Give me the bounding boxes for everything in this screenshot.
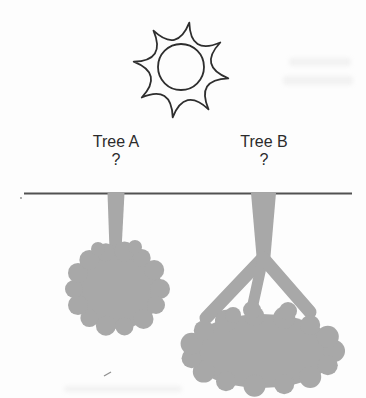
tree-b-label: Tree B: [209, 133, 319, 150]
tree-a-label: Tree A: [61, 133, 171, 150]
sun-core-circle: [158, 44, 204, 90]
tree-roots-diagram: [0, 0, 366, 398]
tree-b-question-mark: ?: [209, 151, 319, 168]
sun-rays-outline: [134, 23, 229, 118]
scan-speck: [104, 372, 111, 376]
tree-a-trunk: [108, 193, 125, 250]
scan-speck: [20, 197, 22, 199]
figure-canvas: Tree A ? Tree B ?: [0, 0, 366, 398]
tree-a-root-ball: [65, 240, 170, 336]
tree-a-roots-silhouette: [65, 193, 170, 336]
sun-icon: [134, 23, 229, 118]
tree-a-question-mark: ?: [61, 151, 171, 168]
tree-b-roots-silhouette: [181, 193, 345, 397]
